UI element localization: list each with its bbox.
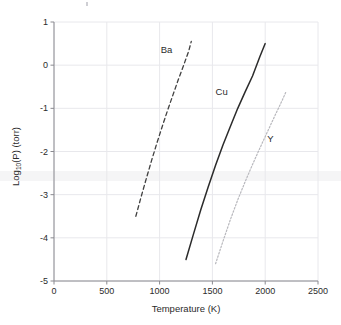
series-label-y: Y (267, 133, 273, 144)
y-tick-label--1: -1 (28, 103, 48, 113)
vapor-pressure-chart: 0500100015002000250010-1-2-3-4-5 BaCuY L… (0, 0, 341, 325)
gridlines (54, 22, 318, 281)
series-label-ba: Ba (161, 44, 173, 55)
y-axis-title: Log10(P) (torr) (10, 116, 23, 196)
x-tick-label-2500: 2500 (308, 286, 328, 296)
y-axis-title-subscript: 10 (15, 163, 22, 170)
x-tick-label-1500: 1500 (202, 286, 222, 296)
y-axis-title-base: Log (10, 170, 21, 186)
y-tick-label--5: -5 (28, 276, 48, 286)
x-tick-label-2000: 2000 (255, 286, 275, 296)
axis-lines (51, 22, 319, 285)
y-tick-label-1: 1 (28, 17, 48, 27)
y-axis-title-rest: (P) (torr) (10, 127, 21, 163)
y-tick-label-0: 0 (28, 60, 48, 70)
y-tick-label--4: -4 (28, 233, 48, 243)
y-tick-label--2: -2 (28, 147, 48, 157)
x-tick-label-500: 500 (99, 286, 114, 296)
x-axis-title: Temperature (K) (54, 303, 318, 314)
x-tick-label-1000: 1000 (150, 286, 170, 296)
y-tick-label--3: -3 (28, 190, 48, 200)
series-label-cu: Cu (216, 86, 228, 97)
series-curve-ba (136, 41, 191, 216)
x-tick-label-0: 0 (51, 286, 56, 296)
data-series-group (136, 41, 286, 263)
